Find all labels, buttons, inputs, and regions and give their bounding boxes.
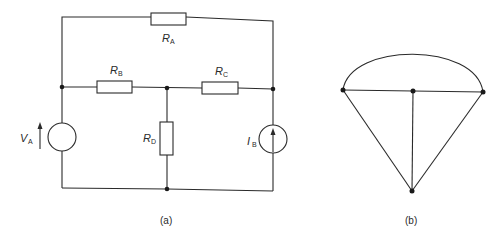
- graph-node-right: [481, 90, 486, 95]
- circuit-figure: R A R B R C V A R D I B: [0, 0, 503, 242]
- label-rd: R: [143, 132, 151, 144]
- graph-node-bottom: [410, 189, 415, 194]
- graph-edge-vertical: [412, 91, 413, 191]
- graph-arc: [343, 54, 483, 92]
- label-ra-sub: A: [170, 38, 175, 45]
- wire-top-right: [186, 17, 273, 88]
- graph-edge-right: [412, 92, 483, 191]
- va-arrow-icon: [38, 122, 43, 129]
- resistor-rc: [202, 82, 238, 94]
- caption-b: (b): [405, 215, 417, 226]
- graph-edge-left: [343, 90, 412, 191]
- node-a-left: [60, 85, 65, 90]
- resistor-ra: [151, 13, 186, 25]
- wire-mid-right: [238, 88, 273, 89]
- label-rd-sub: D: [151, 138, 156, 145]
- wire-top: [62, 17, 151, 88]
- label-ra: R: [162, 32, 170, 44]
- circuit-a: R A R B R C V A R D I B: [20, 13, 287, 226]
- resistor-rb: [97, 81, 132, 93]
- voltage-source-va: [48, 123, 76, 151]
- label-va-sub: A: [28, 138, 33, 145]
- label-ib-sub: B: [252, 141, 257, 148]
- node-a-bottom: [165, 187, 170, 192]
- label-rc-sub: C: [223, 71, 228, 78]
- node-a-center: [165, 86, 170, 91]
- resistor-rd: [160, 122, 173, 155]
- caption-a: (a): [160, 215, 172, 226]
- node-a-right: [271, 87, 276, 92]
- graph-node-left: [341, 88, 346, 93]
- label-rb: R: [110, 64, 118, 76]
- graph-b: (b): [341, 54, 486, 226]
- label-rb-sub: B: [118, 70, 123, 77]
- graph-node-center: [411, 89, 416, 94]
- label-ib: I: [247, 135, 250, 147]
- label-rc: R: [215, 65, 223, 77]
